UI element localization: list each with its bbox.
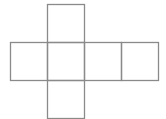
face-right-2 [122, 43, 159, 81]
face-center [48, 43, 85, 81]
face-top [48, 5, 85, 43]
face-bottom [48, 81, 85, 119]
face-left [11, 43, 48, 81]
face-right-1 [85, 43, 122, 81]
cube-net-diagram [0, 0, 166, 119]
